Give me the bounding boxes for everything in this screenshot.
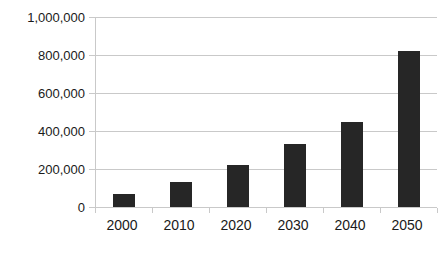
x-axis-tick-0 xyxy=(95,208,96,213)
plot-area xyxy=(95,17,437,207)
x-axis-tick-4 xyxy=(323,208,324,213)
clipped-chart-title xyxy=(95,0,395,7)
bar-2050 xyxy=(398,51,420,207)
x-axis-label-2040: 2040 xyxy=(322,216,378,234)
x-axis-tick-5 xyxy=(380,208,381,213)
x-axis-tick-6 xyxy=(437,208,438,213)
x-axis-label-2000: 2000 xyxy=(94,216,150,234)
x-axis-line xyxy=(89,207,437,208)
x-axis-tick-2 xyxy=(209,208,210,213)
y-axis-label-200000: 200,000 xyxy=(1,163,85,176)
x-axis-label-2010: 2010 xyxy=(151,216,207,234)
x-axis-tick-3 xyxy=(266,208,267,213)
x-axis-label-2020: 2020 xyxy=(208,216,264,234)
bar-chart: 1,000,000 800,000 600,000 400,000 200,00… xyxy=(0,0,445,256)
y-axis-label-0: 0 xyxy=(1,201,85,214)
y-axis-label-400000: 400,000 xyxy=(1,125,85,138)
y-axis-label-600000: 600,000 xyxy=(1,87,85,100)
bar-2010 xyxy=(170,182,192,207)
bar-2020 xyxy=(227,165,249,207)
bar-2030 xyxy=(284,144,306,207)
bar-series xyxy=(95,17,437,207)
y-axis-label-800000: 800,000 xyxy=(1,49,85,62)
bar-2040 xyxy=(341,122,363,208)
y-axis-label-1000000: 1,000,000 xyxy=(1,11,85,24)
y-axis-labels: 1,000,000 800,000 600,000 400,000 200,00… xyxy=(0,0,85,256)
bar-2000 xyxy=(113,194,135,207)
x-axis-tick-1 xyxy=(152,208,153,213)
x-axis-label-2050: 2050 xyxy=(379,216,435,234)
x-axis-labels: 2000 2010 2020 2030 2040 2050 xyxy=(95,216,437,238)
x-axis-label-2030: 2030 xyxy=(265,216,321,234)
